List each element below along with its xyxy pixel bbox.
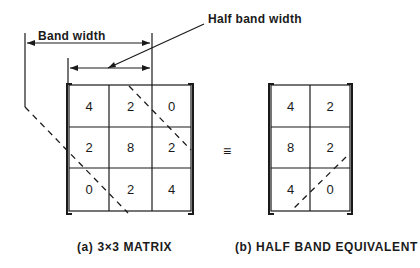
matrix-a-cell: 0 bbox=[152, 85, 191, 127]
matrix-b-cell: 0 bbox=[310, 168, 350, 211]
half-band-width-label: Half band width bbox=[208, 12, 302, 26]
matrix-b-cell: 8 bbox=[271, 127, 310, 168]
matrix-a-cell: 2 bbox=[109, 168, 152, 211]
matrix-b-cell: 4 bbox=[271, 85, 310, 127]
matrix-b-cell: 4 bbox=[271, 168, 310, 211]
matrix-b-caption: (b) HALF BAND EQUIVALENT bbox=[235, 240, 418, 254]
matrix-a-cell: 2 bbox=[109, 85, 152, 127]
matrix-a-caption: (a) 3×3 MATRIX bbox=[77, 240, 172, 254]
matrix-a-cell: 2 bbox=[152, 127, 191, 168]
matrix-a-cell: 4 bbox=[152, 168, 191, 211]
band-width-label: Band width bbox=[38, 29, 106, 43]
equivalence-symbol: ≡ bbox=[223, 143, 231, 159]
matrix-a-cell: 2 bbox=[69, 127, 109, 168]
matrix-a-cell: 0 bbox=[69, 168, 109, 211]
matrix-b-cell: 2 bbox=[310, 127, 350, 168]
matrix-a-cell: 8 bbox=[109, 127, 152, 168]
matrix-b-cell: 2 bbox=[310, 85, 350, 127]
matrix-a-cell: 4 bbox=[69, 85, 109, 127]
